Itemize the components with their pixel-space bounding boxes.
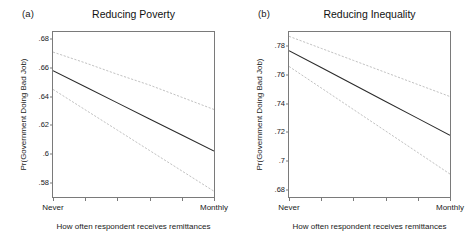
chart-title-b: Reducing Inequality <box>288 8 451 20</box>
x-tick-label: Monthly <box>200 203 228 212</box>
x-axis-title-b: How often respondent receives remittance… <box>288 222 451 231</box>
x-axis-title-a: How often respondent receives remittance… <box>52 222 215 231</box>
y-tick-label: .78 <box>275 42 289 50</box>
y-tick-label: .72 <box>275 128 289 136</box>
y-tick-label: .74 <box>275 100 289 108</box>
plot-area-b: .68.7.72.74.76.78NeverMonthly <box>288 31 451 198</box>
y-tick-label: .76 <box>275 71 289 79</box>
x-tick-label: Monthly <box>436 203 464 212</box>
series-line <box>53 52 214 109</box>
y-tick-label: .64 <box>39 93 53 101</box>
x-tick-mark <box>53 197 54 201</box>
series-line <box>53 89 214 191</box>
y-tick-label: .58 <box>39 179 53 187</box>
chart-panel-a: (a) Reducing Poverty Pr(Government Doing… <box>0 0 236 245</box>
x-tick-mark <box>85 197 86 201</box>
plot-lines-a <box>53 32 214 197</box>
x-tick-mark <box>450 197 451 201</box>
y-tick-label: .68 <box>39 35 53 43</box>
x-tick-label: Never <box>42 203 63 212</box>
y-tick-label: .6 <box>43 150 53 158</box>
chart-panel-b: (b) Reducing Inequality Pr(Government Do… <box>236 0 472 245</box>
x-tick-mark <box>117 197 118 201</box>
plot-area-a: .58.6.62.64.66.68NeverMonthly <box>52 31 215 198</box>
x-tick-mark <box>321 197 322 201</box>
y-tick-label: .7 <box>279 157 289 165</box>
x-tick-mark <box>418 197 419 201</box>
plot-lines-b <box>289 32 450 197</box>
y-axis-title-b: Pr(Government Doing Bad Job) <box>253 31 265 198</box>
series-line <box>289 66 450 174</box>
x-tick-mark <box>386 197 387 201</box>
y-axis-title-a: Pr(Government Doing Bad Job) <box>17 31 29 198</box>
x-tick-mark <box>182 197 183 201</box>
series-line <box>289 51 450 136</box>
chart-title-a: Reducing Poverty <box>52 8 215 20</box>
panel-label-b: (b) <box>258 8 270 19</box>
y-tick-label: .68 <box>275 186 289 194</box>
y-tick-label: .66 <box>39 64 53 72</box>
x-tick-mark <box>214 197 215 201</box>
x-tick-mark <box>150 197 151 201</box>
y-tick-label: .62 <box>39 121 53 129</box>
series-line <box>53 71 214 151</box>
series-line <box>289 36 450 96</box>
panel-label-a: (a) <box>22 8 34 19</box>
x-tick-label: Never <box>278 203 299 212</box>
x-tick-mark <box>353 197 354 201</box>
figure-panels: (a) Reducing Poverty Pr(Government Doing… <box>0 0 472 245</box>
x-tick-mark <box>289 197 290 201</box>
y-axis-title-text-a: Pr(Government Doing Bad Job) <box>19 58 28 170</box>
y-axis-title-text-b: Pr(Government Doing Bad Job) <box>255 58 264 170</box>
